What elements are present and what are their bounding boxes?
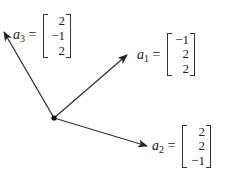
- vector-subscript: 1: [144, 53, 149, 64]
- matrix-entry: 2: [199, 125, 206, 139]
- vector-a1-matrix: −1 2 2: [167, 33, 195, 76]
- vector-a2-matrix: 2 2 −1: [182, 125, 211, 168]
- matrix-entry: 2: [199, 139, 206, 153]
- vector-symbol: a: [137, 47, 144, 62]
- equals-sign: =: [168, 138, 176, 153]
- equals-sign: =: [29, 27, 37, 42]
- vector-a2-label: a2 =: [152, 139, 175, 157]
- vector-a1-arrow: [54, 55, 127, 118]
- vector-subscript: 2: [159, 144, 164, 155]
- vector-subscript: 3: [20, 33, 25, 44]
- matrix-entry: 2: [183, 47, 190, 61]
- matrix-entry: 2: [59, 44, 66, 58]
- vector-a1-label: a1 =: [137, 48, 160, 66]
- matrix-entry: 2: [183, 62, 190, 76]
- matrix-entry: 2: [59, 14, 66, 28]
- matrix-entry: −1: [175, 33, 189, 47]
- matrix-entry: −1: [51, 29, 65, 43]
- vector-symbol: a: [13, 27, 20, 42]
- vector-a3-matrix: 2 −1 2: [43, 14, 71, 58]
- vector-symbol: a: [152, 138, 159, 153]
- matrix-entry: −1: [191, 154, 205, 168]
- vector-a3-label: a3 =: [13, 28, 36, 46]
- vector-a2-arrow: [54, 118, 147, 146]
- origin-point: [51, 115, 56, 120]
- equals-sign: =: [153, 47, 161, 62]
